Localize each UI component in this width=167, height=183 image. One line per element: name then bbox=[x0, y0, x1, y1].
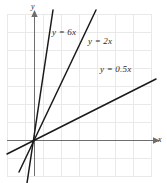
coordinate-plot bbox=[0, 0, 167, 183]
y-axis-label: y bbox=[31, 3, 35, 11]
line-label-y-equals-2x: y = 2x bbox=[88, 37, 112, 46]
line-label-y-equals-0p5x: y = 0.5x bbox=[100, 65, 131, 74]
graph-figure: y = 6x y = 2x y = 0.5x y x bbox=[0, 0, 167, 183]
line-y-equals-6x bbox=[27, 10, 53, 183]
x-axis-label: x bbox=[158, 136, 162, 144]
y-axis-arrowhead bbox=[31, 10, 37, 17]
line-label-y-equals-6x: y = 6x bbox=[52, 28, 76, 37]
